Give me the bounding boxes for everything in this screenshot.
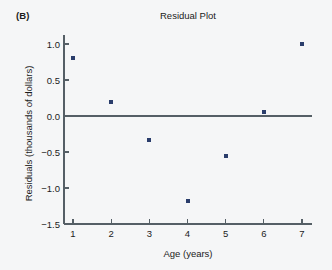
x-tick-label: 3	[147, 228, 152, 239]
x-tick-label: 4	[185, 228, 190, 239]
y-tick-label: −0.5	[41, 147, 60, 158]
x-tick-label: 5	[223, 228, 228, 239]
data-point	[109, 100, 113, 104]
y-tick-label: −1.0	[41, 183, 60, 194]
y-tick-label: 1.0	[47, 39, 60, 50]
data-point	[147, 138, 151, 142]
x-tick-label: 1	[70, 228, 75, 239]
y-tick-label: 0.0	[47, 111, 60, 122]
x-tick-label: 6	[261, 228, 266, 239]
data-point	[224, 154, 228, 158]
data-point	[300, 42, 304, 46]
data-point	[71, 56, 75, 60]
x-tick-label: 2	[109, 228, 114, 239]
data-point	[186, 199, 190, 203]
plot-area	[64, 38, 312, 232]
y-tick-label: 0.5	[47, 75, 60, 86]
y-tick-label: −1.5	[41, 219, 60, 230]
residual-plot-figure: (B) Residual Plot Residuals (thousands o…	[0, 0, 332, 270]
data-point	[262, 110, 266, 114]
x-tick-label: 7	[299, 228, 304, 239]
